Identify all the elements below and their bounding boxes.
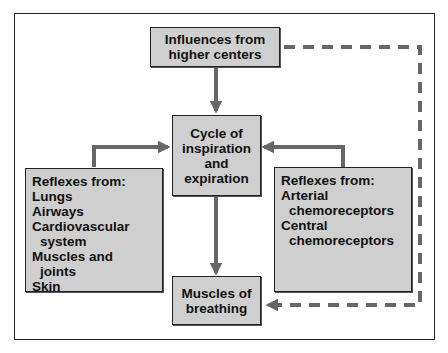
node-text: expiration <box>184 171 249 186</box>
node-text: and <box>204 156 228 171</box>
node-text: Reflexes from: <box>32 174 156 189</box>
node-text: Muscles and <box>32 249 156 264</box>
node-text: chemoreceptors <box>281 203 405 218</box>
arrow-left-reflexes-to-cycle <box>94 147 168 167</box>
arrow-right-reflexes-to-cycle <box>264 147 343 167</box>
node-left-reflexes: Reflexes from: Lungs Airways Cardiovascu… <box>25 168 163 292</box>
node-cycle: Cycle of inspiration and expiration <box>172 115 261 196</box>
node-text: Cycle of <box>190 126 243 141</box>
node-text: Skin <box>32 279 156 294</box>
node-text: system <box>32 234 156 249</box>
node-text: Reflexes from: <box>281 173 405 188</box>
node-text: Influences from <box>165 32 266 47</box>
node-muscles: Muscles of breathing <box>172 276 261 325</box>
node-higher-centers: Influences from higher centers <box>150 27 280 67</box>
node-text: higher centers <box>168 47 261 62</box>
node-right-reflexes: Reflexes from: Arterial chemoreceptors C… <box>274 167 412 292</box>
node-text: Central <box>281 218 405 233</box>
node-text: Airways <box>32 204 156 219</box>
node-text: breathing <box>186 301 248 316</box>
node-text: inspiration <box>182 141 251 156</box>
node-text: Muscles of <box>182 286 252 301</box>
node-text: Cardiovascular <box>32 219 156 234</box>
node-text: Arterial <box>281 188 405 203</box>
node-text: joints <box>32 264 156 279</box>
node-text: Lungs <box>32 189 156 204</box>
node-text: chemoreceptors <box>281 233 405 248</box>
